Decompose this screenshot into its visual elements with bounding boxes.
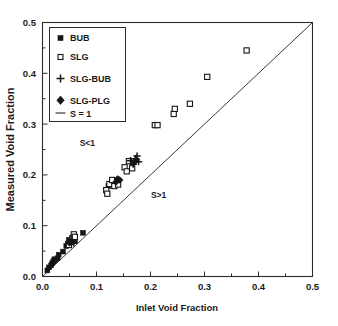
x-tick-label-0: 0.0 [36, 281, 49, 292]
legend-label-s-equals-one: S = 1 [70, 109, 91, 119]
x-tick-label-1: 0.1 [90, 281, 104, 292]
figure-container: 0.0 0.1 0.2 0.3 0.4 0.5 0.0 0.1 0.2 0.3 … [0, 0, 338, 326]
open-square-icon [58, 55, 63, 60]
legend-label-slg-plg: SLG-PLG [70, 96, 110, 106]
y-tick-label-0: 0.0 [23, 271, 36, 282]
x-axis-title: Inlet Void Fraction [136, 302, 218, 313]
x-tick-label-5: 0.5 [306, 281, 320, 292]
y-tick-label-4: 0.4 [23, 68, 37, 79]
annotation-s-greater-than-one: S>1 [151, 190, 167, 200]
y-tick-label-3: 0.3 [23, 119, 36, 130]
x-tick-label-4: 0.4 [252, 281, 266, 292]
y-axis-title: Measured Void Fraction [4, 87, 16, 211]
legend-label-slg: SLG [70, 52, 89, 62]
filled-square-icon [58, 36, 63, 41]
y-tick-label-5: 0.5 [23, 17, 37, 28]
scatter-plot: 0.0 0.1 0.2 0.3 0.4 0.5 0.0 0.1 0.2 0.3 … [0, 0, 338, 326]
y-tick-label-1: 0.1 [23, 220, 37, 231]
annotation-s-less-than-one: S<1 [80, 138, 96, 148]
legend-label-bub: BUB [70, 33, 90, 43]
x-tick-label-2: 0.2 [144, 281, 157, 292]
y-tick-label-2: 0.2 [23, 169, 36, 180]
legend-label-slg-bub: SLG-BUB [70, 74, 111, 84]
legend: BUB SLG SLG-BUB SLG-PLG S = 1 [50, 28, 126, 122]
x-tick-label-3: 0.3 [198, 281, 211, 292]
